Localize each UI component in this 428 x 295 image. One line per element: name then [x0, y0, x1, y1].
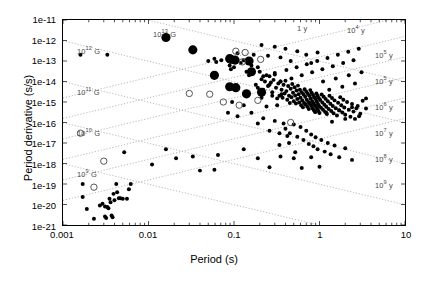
x-tick-label: 0.01: [118, 229, 178, 240]
x-tick-label: 1: [290, 229, 350, 240]
age-label-1y: 1 y: [297, 24, 307, 33]
bfield-label-10: 1010 G: [77, 127, 100, 138]
ppdot-figure: 1e-11 1e-12 1e-13 1e-14 1e-15 1e-16 1e-1…: [0, 0, 428, 295]
bfield-label-13: 1013 G: [153, 28, 176, 39]
x-tick-label: 0.001: [32, 229, 92, 240]
age-label-1e8: 108 y: [375, 153, 393, 164]
age-label-1e5b: 105 y: [375, 75, 393, 86]
data-points: [77, 33, 368, 221]
x-tick-label: 10: [376, 229, 428, 240]
x-axis-title: Period (s): [0, 253, 428, 265]
age-label-1e6: 106 y: [375, 101, 393, 112]
x-tick-label: 0.1: [204, 229, 264, 240]
y-axis-title: Period derivative (s/s): [22, 38, 34, 218]
bfield-label-11: 1011 G: [77, 86, 100, 97]
bfield-label-12: 1012 G: [77, 45, 100, 56]
age-label-1e4: 104 y: [347, 24, 365, 35]
age-label-1e7: 107 y: [375, 127, 393, 138]
age-label-1e9: 109 y: [375, 179, 393, 190]
y-tick-label: 1e-11: [4, 14, 56, 25]
plot-area: 1013 G 1012 G 1011 G 1010 G 109 G 1 y 10…: [62, 19, 406, 226]
age-label-1e5: 105 y: [375, 49, 393, 60]
bfield-label-9: 109 G: [77, 168, 97, 179]
plot-canvas: [63, 20, 405, 225]
